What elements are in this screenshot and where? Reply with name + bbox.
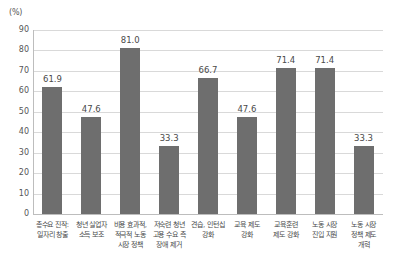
bar-slot: 71.4 <box>266 30 305 214</box>
bar-slot: 33.3 <box>344 30 383 214</box>
y-axis-tick-labels: 9080706050403020100 <box>0 0 29 277</box>
y-tick-label: 20 <box>19 169 29 177</box>
gridline-0 <box>33 214 383 215</box>
bar-value-label: 33.3 <box>354 134 373 143</box>
y-tick-label: 60 <box>19 87 29 95</box>
bar-value-label: 47.6 <box>82 105 101 114</box>
bar-value-label: 61.9 <box>43 75 62 84</box>
bar[interactable] <box>198 78 218 214</box>
bar-slot: 71.4 <box>305 30 344 214</box>
y-tick-label: 0 <box>24 210 29 218</box>
y-tick-label: 90 <box>19 26 29 34</box>
bar-slot: 47.6 <box>72 30 111 214</box>
bar-slot: 47.6 <box>227 30 266 214</box>
bar-value-label: 81.0 <box>121 36 140 45</box>
bar[interactable] <box>315 68 335 214</box>
x-axis-category-labels: 총수요 진작: 일자리 창출청년 실업자 소득 보조비용 효과적, 적극적 노동… <box>33 220 383 276</box>
x-category-label: 노동 시장 진입 지원 <box>305 220 344 240</box>
x-category-label: 청년 실업자 소득 보조 <box>72 220 111 240</box>
bar-value-label: 71.4 <box>276 56 295 65</box>
y-tick-label: 70 <box>19 67 29 75</box>
bar[interactable] <box>237 117 257 214</box>
y-tick-label: 50 <box>19 108 29 116</box>
bar-value-label: 47.6 <box>237 105 256 114</box>
bar-slot: 66.7 <box>189 30 228 214</box>
x-category-label: 견습, 인턴십 강화 <box>189 220 228 240</box>
bar[interactable] <box>354 146 374 214</box>
bars-layer: 61.947.681.033.366.747.671.471.433.3 <box>33 30 383 214</box>
bar[interactable] <box>159 146 179 214</box>
x-category-label: 교육훈련 제도 강화 <box>266 220 305 240</box>
bar[interactable] <box>81 117 101 214</box>
bar-slot: 33.3 <box>150 30 189 214</box>
y-tick-label: 40 <box>19 128 29 136</box>
y-tick-label: 80 <box>19 46 29 54</box>
bar[interactable] <box>276 68 296 214</box>
x-category-label: 저숙련 청년 고용 수요 측 장애 제거 <box>150 220 189 250</box>
bar-value-label: 66.7 <box>199 66 218 75</box>
bar[interactable] <box>42 87 62 214</box>
bar-slot: 81.0 <box>111 30 150 214</box>
x-category-label: 노동 시장 정책 제도 개혁 <box>344 220 383 250</box>
bar-value-label: 33.3 <box>160 134 179 143</box>
y-tick-label: 10 <box>19 190 29 198</box>
x-category-label: 총수요 진작: 일자리 창출 <box>33 220 72 240</box>
bar[interactable] <box>120 48 140 214</box>
bar-value-label: 71.4 <box>315 56 334 65</box>
x-category-label: 교육 제도 강화 <box>227 220 266 240</box>
bar-chart: (%) 9080706050403020100 61.947.681.033.3… <box>0 0 394 277</box>
bar-slot: 61.9 <box>33 30 72 214</box>
x-category-label: 비용 효과적, 적극적 노동 시장 정책 <box>111 220 150 250</box>
y-tick-label: 30 <box>19 149 29 157</box>
